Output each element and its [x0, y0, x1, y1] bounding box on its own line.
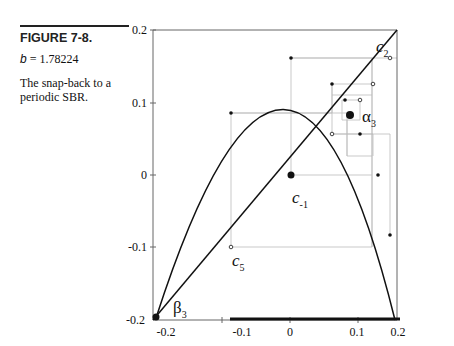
- svg-text:0.2: 0.2: [132, 23, 147, 37]
- svg-text:0: 0: [287, 325, 293, 339]
- orbit-points: [153, 56, 392, 320]
- map-curve: [156, 109, 395, 320]
- label-beta3: β3: [173, 298, 187, 320]
- label-c-minus1: c-1: [292, 188, 308, 210]
- svg-text:0: 0: [141, 168, 147, 182]
- svg-text:-0.2: -0.2: [126, 313, 145, 327]
- cobweb-lines: [231, 58, 397, 247]
- svg-text:-0.1: -0.1: [128, 240, 147, 254]
- svg-text:0.1: 0.1: [132, 96, 147, 110]
- svg-text:-0.2: -0.2: [157, 325, 176, 339]
- y-tick-labels: 0.2 0.1 0 -0.1 -0.2: [126, 23, 147, 327]
- svg-text:0.2: 0.2: [391, 325, 406, 339]
- axis-ticks: [150, 30, 358, 323]
- label-alpha3: α3: [362, 107, 376, 129]
- svg-text:-0.1: -0.1: [233, 325, 252, 339]
- label-c2: c2: [376, 37, 389, 59]
- svg-text:0.1: 0.1: [350, 325, 365, 339]
- open-points: [229, 56, 392, 249]
- label-c5: c5: [232, 251, 245, 273]
- cobweb-plot: 0.2 0.1 0 -0.1 -0.2 -0.2 -0.1 0 0.1 0.2 …: [0, 0, 454, 346]
- x-tick-labels: -0.2 -0.1 0 0.1 0.2: [157, 325, 406, 339]
